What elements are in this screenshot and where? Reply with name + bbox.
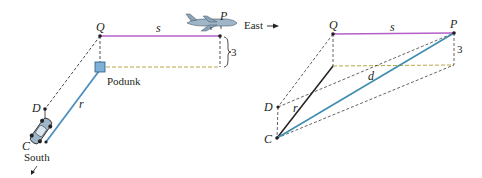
dashed-c-bottom-right [277, 65, 454, 138]
point-p-left [218, 34, 222, 38]
dashed-q-d-right [278, 34, 333, 107]
label-q-left: Q [96, 20, 105, 34]
dashed-d-p [278, 33, 454, 107]
label-r-right: r [293, 101, 298, 115]
d-line [277, 33, 454, 138]
label-r-left: r [79, 97, 84, 111]
left-panel: 3 Q P s Po [22, 9, 279, 175]
label-d-left: D [31, 101, 41, 115]
point-c-right [275, 136, 279, 140]
label-p-right: P [449, 17, 458, 31]
label-q-right: Q [329, 18, 338, 32]
airplane-icon [186, 14, 237, 31]
r-line-right [277, 66, 333, 138]
label-p-left: P [219, 9, 228, 23]
label-east: East [244, 19, 263, 31]
r-line [46, 71, 99, 142]
east-arrow-icon [267, 24, 279, 29]
dashed-q-d [45, 36, 100, 109]
point-q-right [331, 32, 335, 36]
label-3-right: 3 [457, 43, 463, 55]
diagram: 3 Q P s Po [0, 0, 482, 178]
point-c-left [44, 140, 47, 143]
point-q-left [98, 34, 102, 38]
point-p-right [452, 31, 456, 35]
label-d-distance: d [368, 69, 375, 83]
dashed-d-c [277, 107, 278, 138]
right-panel: Q P s 3 d r D C [263, 17, 463, 146]
diagram-canvas: 3 Q P s Po [0, 0, 482, 178]
south-arrow-icon [31, 166, 37, 175]
point-d-left [43, 107, 47, 111]
label-3-left: 3 [231, 46, 237, 58]
point-d-right [276, 105, 279, 108]
label-south: South [24, 151, 50, 163]
label-s-left: s [156, 21, 161, 35]
label-podunk: Podunk [107, 75, 141, 87]
brace-3 [224, 37, 231, 67]
yellow-dashed-line-right [333, 65, 454, 66]
podunk-marker [95, 62, 105, 72]
label-d-point-right: D [263, 100, 273, 114]
label-c-right: C [264, 132, 273, 146]
car-icon [27, 116, 55, 147]
label-s-right: s [390, 20, 395, 34]
